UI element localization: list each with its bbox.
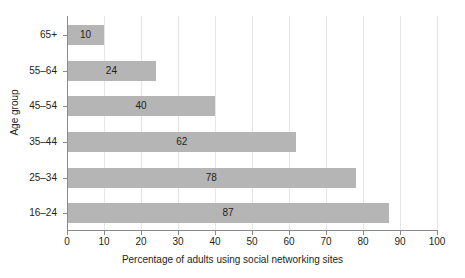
x-axis-tick-mark	[252, 231, 253, 235]
x-axis-tick-label: 90	[380, 236, 420, 247]
gridline-90	[400, 16, 401, 230]
bar-row: 10	[67, 25, 437, 45]
x-axis-tick-labels: 0102030405060708090100	[67, 236, 438, 250]
x-axis-tick-label: 20	[121, 236, 161, 247]
x-axis-tick-label: 40	[195, 236, 235, 247]
x-axis-tick-mark	[178, 231, 179, 235]
bar-row: 40	[67, 96, 437, 116]
bar-value-label: 24	[67, 61, 156, 81]
x-axis-tick-label: 100	[417, 236, 457, 247]
y-axis-tick-mark	[63, 106, 67, 107]
y-axis-tick-label: 55–64	[29, 61, 57, 81]
x-axis-tick-mark	[400, 231, 401, 235]
gridline-70	[326, 16, 327, 230]
y-axis-tick-label: 35–44	[29, 132, 57, 152]
bar-value-label: 78	[67, 168, 356, 188]
gridline-10	[104, 16, 105, 230]
x-axis-tick-label: 50	[232, 236, 272, 247]
y-axis-tick-label: 45–54	[29, 96, 57, 116]
x-axis-tick-mark	[326, 231, 327, 235]
y-axis-tick-label: 65+	[40, 25, 57, 45]
bar-value-label: 87	[67, 203, 389, 223]
y-axis-tick-label: 25–34	[29, 168, 57, 188]
x-axis-tick-label: 60	[269, 236, 309, 247]
y-axis-tick-mark	[63, 213, 67, 214]
gridline-60	[289, 16, 290, 230]
gridline-40	[215, 16, 216, 230]
y-axis-tick-mark	[63, 142, 67, 143]
y-axis-line	[67, 16, 68, 231]
bar-value-label: 10	[67, 25, 104, 45]
x-axis-tick-mark	[363, 231, 364, 235]
x-axis-tick-mark	[289, 231, 290, 235]
gridline-30	[178, 16, 179, 230]
gridline-20	[141, 16, 142, 230]
bar-value-label: 40	[67, 96, 215, 116]
x-axis-tick-label: 70	[306, 236, 346, 247]
x-axis-tick-label: 10	[84, 236, 124, 247]
y-axis-tick-mark	[63, 71, 67, 72]
gridline-100	[437, 16, 438, 230]
bar-row: 78	[67, 168, 437, 188]
gridline-50	[252, 16, 253, 230]
y-axis-tick-mark	[63, 35, 67, 36]
y-axis-title: Age group	[9, 63, 20, 163]
x-axis-tick-mark	[67, 231, 68, 235]
x-axis-title: Percentage of adults using social networ…	[0, 254, 465, 265]
x-axis-tick-mark	[104, 231, 105, 235]
x-axis-tick-mark	[141, 231, 142, 235]
x-axis-tick-marks	[67, 231, 438, 235]
bar-row: 62	[67, 132, 437, 152]
x-axis-tick-mark	[215, 231, 216, 235]
bar-chart: 102440627887 65+55–6445–5435–4425–3416–2…	[0, 0, 465, 278]
bar-value-label: 62	[67, 132, 296, 152]
y-axis-tick-label: 16–24	[29, 203, 57, 223]
x-axis-tick-label: 30	[158, 236, 198, 247]
bar-row: 24	[67, 61, 437, 81]
gridline-80	[363, 16, 364, 230]
x-axis-tick-label: 0	[47, 236, 87, 247]
plot-area: 102440627887	[67, 16, 437, 230]
bar-row: 87	[67, 203, 437, 223]
x-axis-tick-mark	[437, 231, 438, 235]
y-axis-tick-mark	[63, 178, 67, 179]
x-axis-tick-label: 80	[343, 236, 383, 247]
